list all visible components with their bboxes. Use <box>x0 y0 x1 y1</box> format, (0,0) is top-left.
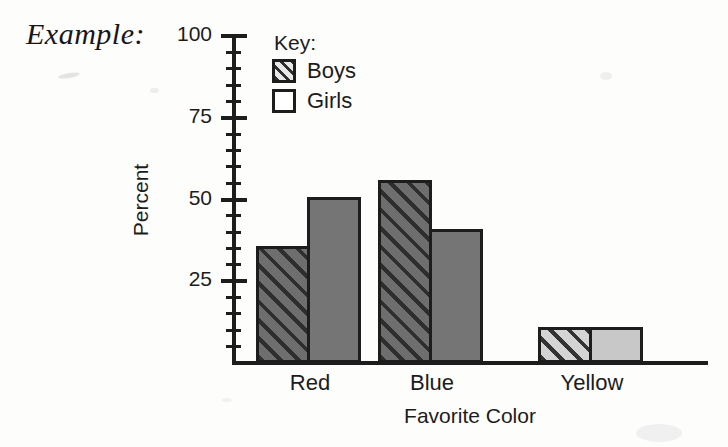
legend-entry-boys: Boys <box>272 59 356 83</box>
legend-entry-girls: Girls <box>272 89 356 113</box>
x-axis-category-label: Red <box>250 370 370 396</box>
x-axis-category-label: Yellow <box>532 370 652 396</box>
bar-chart: 100755025 Percent RedBlueYellow Favorite… <box>0 0 728 447</box>
bars-layer <box>0 0 728 363</box>
bar-yellow-girls <box>589 327 643 363</box>
legend-title: Key: <box>274 32 356 53</box>
empty-swatch <box>272 89 296 113</box>
bar-yellow-boys <box>538 327 592 363</box>
bar-red-girls <box>307 197 361 364</box>
bar-blue-girls <box>429 229 483 363</box>
legend-entry-label: Girls <box>307 90 352 112</box>
legend-entries: BoysGirls <box>272 59 356 113</box>
legend: Key: BoysGirls <box>272 32 356 113</box>
x-axis-category-label: Blue <box>372 370 492 396</box>
bar-red-boys <box>256 246 310 363</box>
hatched-swatch <box>272 59 296 83</box>
legend-entry-label: Boys <box>307 60 356 82</box>
bar-blue-boys <box>378 180 432 363</box>
chart-page: Example: 100755025 Percent RedBlueYellow… <box>0 0 728 447</box>
x-axis-title: Favorite Color <box>404 404 536 428</box>
